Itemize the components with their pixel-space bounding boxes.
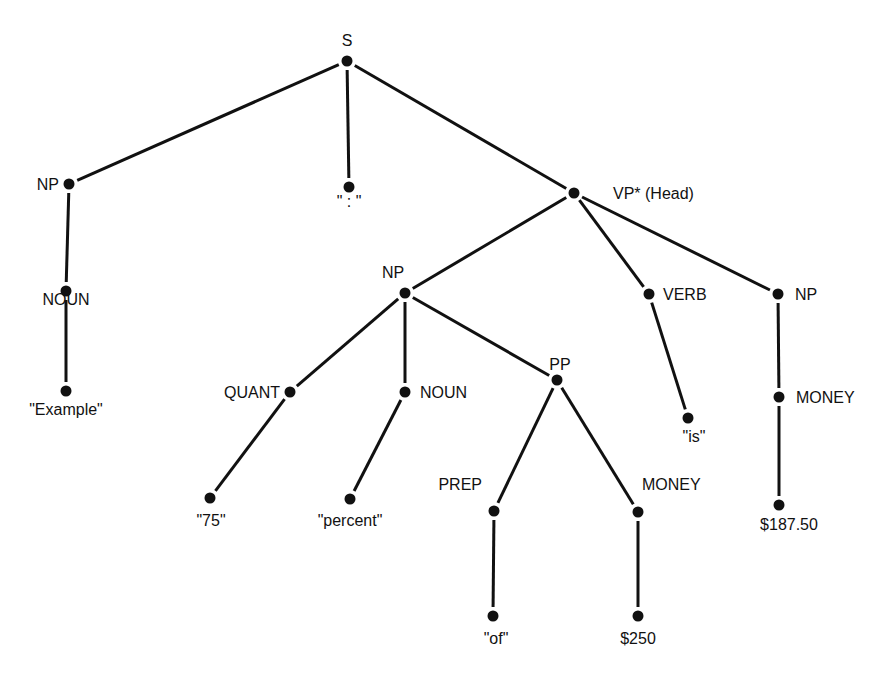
node-dot-icon [489,506,500,517]
tree-edge-quant-n75 [215,399,284,491]
node-label: "Example" [29,401,103,418]
node-label: MONEY [642,476,701,493]
tree-node-np2: NP [382,264,411,299]
tree-node-p18750: $187.50 [760,500,818,534]
node-label: "of" [484,630,509,647]
tree-node-money1: MONEY [774,389,856,406]
node-dot-icon [400,387,411,398]
node-label: " : " [337,193,362,210]
node-label: "percent" [318,512,383,529]
tree-node-percent: "percent" [318,494,383,530]
node-dot-icon [64,179,75,190]
tree-edge-np1-noun1 [66,193,68,282]
node-label: NP [382,264,404,281]
node-dot-icon [774,500,785,511]
node-dot-icon [61,386,72,397]
node-dot-icon [552,375,563,386]
node-dot-icon [633,611,644,622]
tree-edge-prep-of [493,520,494,607]
node-label: MONEY [796,389,855,406]
tree-edge-verb-is [652,303,686,410]
node-label: $250 [620,630,656,647]
node-dot-icon [683,413,694,424]
node-label: VERB [663,286,707,303]
tree-node-noun2: NOUN [400,384,468,401]
tree-node-colon: " : " [337,182,362,211]
node-dot-icon [773,289,784,300]
node-label: NOUN [42,291,89,308]
tree-edge-np2-quant [297,299,398,386]
tree-node-np1: NP [37,176,75,193]
node-dot-icon [205,493,216,504]
node-label: NP [795,286,817,303]
node-dot-icon [488,611,499,622]
node-label: $187.50 [760,516,818,533]
node-label: NP [37,176,59,193]
tree-edge-noun2-percent [354,400,401,491]
tree-edge-pp-money2 [562,388,634,505]
node-dot-icon [644,289,655,300]
node-dot-icon [342,56,353,67]
tree-node-prep: PREP [438,476,499,517]
tree-edge-s-vp [355,66,566,189]
parse-tree-diagram: SNP" : "VP* (Head)NOUN"Example"NPVERBNPQ… [0,0,896,676]
node-dot-icon [633,507,644,518]
tree-nodes: SNP" : "VP* (Head)NOUN"Example"NPVERBNPQ… [29,32,855,647]
tree-node-is: "is" [683,413,706,446]
tree-node-quant: QUANT [224,384,296,401]
node-dot-icon [285,387,296,398]
node-label: "is" [683,428,706,445]
node-label: S [342,32,353,49]
node-label: VP* (Head) [613,185,694,202]
tree-node-pp: PP [549,356,570,386]
tree-node-money2: MONEY [633,476,702,518]
tree-edge-s-colon [347,70,349,178]
node-label: "75" [196,512,225,529]
node-label: PREP [438,476,482,493]
tree-node-noun1: NOUN [42,286,89,309]
node-label: NOUN [420,384,467,401]
tree-edge-np2-pp [413,297,549,375]
tree-node-np3: NP [773,286,818,303]
tree-node-p250: $250 [620,611,656,648]
node-dot-icon [569,188,580,199]
tree-node-n75: "75" [196,493,225,530]
tree-node-s: S [342,32,353,67]
tree-edge-s-np1 [77,65,339,181]
tree-edge-np3-money1 [778,303,779,388]
tree-node-verb: VERB [644,286,707,303]
node-dot-icon [774,392,785,403]
tree-node-example: "Example" [29,386,103,419]
node-dot-icon [400,288,411,299]
node-dot-icon [345,494,356,505]
node-label: PP [549,356,570,373]
tree-edges [66,65,779,607]
tree-edge-vp-np2 [413,198,567,289]
node-label: QUANT [224,384,280,401]
node-dot-icon [344,182,355,193]
tree-edge-pp-prep [498,388,553,503]
tree-node-of: "of" [484,611,509,648]
